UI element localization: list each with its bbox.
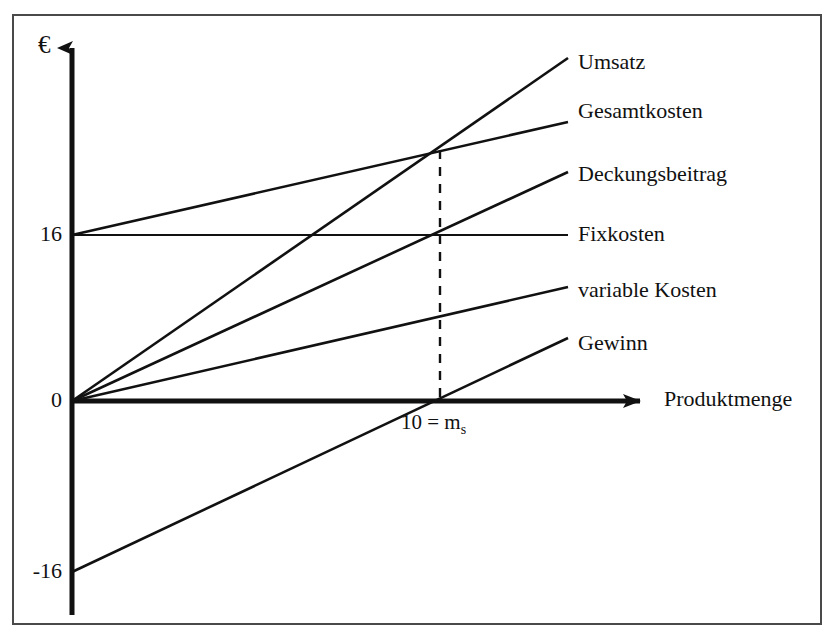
series-line-umsatz — [72, 58, 568, 401]
breakeven-subscript: s — [461, 422, 466, 437]
y-tick-label-negative-16: -16 — [6, 558, 62, 584]
series-line-gesamtkosten — [72, 122, 568, 235]
series-label-fixkosten: Fixkosten — [578, 221, 665, 247]
series-line-deckungsbeitrag — [72, 172, 568, 401]
breakeven-value: 10 = m — [401, 410, 461, 434]
series-label-deckungsbeitrag: Deckungsbeitrag — [578, 161, 727, 187]
series-label-gewinn: Gewinn — [578, 330, 648, 356]
series-label-gesamtkosten: Gesamtkosten — [578, 98, 703, 124]
break-even-plot — [0, 0, 836, 643]
breakeven-quantity-label: 10 = ms — [401, 410, 466, 438]
y-tick-label-0: 0 — [10, 387, 62, 413]
series-label-umsatz: Umsatz — [578, 49, 645, 75]
x-axis-title: Produktmenge — [664, 386, 792, 412]
series-label-variable-kosten: variable Kosten — [578, 277, 717, 303]
y-axis-currency-symbol: € — [38, 32, 51, 57]
y-tick-label-16: 16 — [10, 221, 62, 247]
series-line-gewinn — [72, 338, 568, 572]
series-line-variable-kosten — [72, 287, 568, 401]
